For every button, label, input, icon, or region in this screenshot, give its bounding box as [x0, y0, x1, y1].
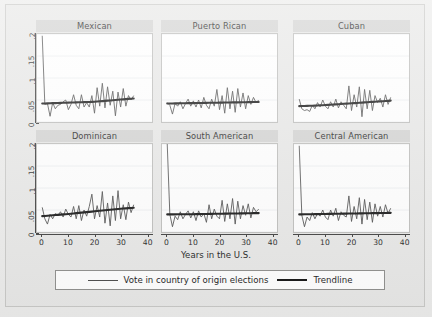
- series-trendline: [299, 101, 390, 107]
- plot-area-puerto-rican: [161, 33, 278, 123]
- x-tick-label: 30: [241, 238, 251, 247]
- plot-svg-cuban: [294, 34, 409, 122]
- x-tick-mark: [121, 234, 122, 237]
- x-tick-label: 0: [296, 238, 301, 247]
- series-vote-line: [42, 36, 133, 117]
- x-tick-label: 10: [320, 238, 330, 247]
- x-tick-label: 40: [268, 238, 278, 247]
- x-axis-central-american: 010203040: [293, 234, 410, 250]
- panel-cuban: Cuban: [293, 20, 410, 123]
- x-tick-mark: [378, 234, 379, 237]
- x-tick-mark: [148, 234, 149, 237]
- x-tick-label: 20: [347, 238, 357, 247]
- plot-area-cuban: [293, 33, 410, 123]
- x-tick-label: 20: [90, 238, 100, 247]
- y-axis-row-2: 0.05.1.15.2: [10, 143, 36, 233]
- plot-svg-central-american: [294, 144, 409, 232]
- x-tick-mark: [273, 234, 274, 237]
- plot-svg-mexican: [37, 34, 152, 122]
- x-tick-label: 0: [39, 238, 44, 247]
- panel-title-south-american: South American: [161, 130, 278, 142]
- chart-screenshot: 0.05.1.15.2 0.05.1.15.2 Mexican Puerto R…: [0, 0, 432, 317]
- x-tick-mark: [41, 234, 42, 237]
- x-axis-title: Years in the U.S.: [0, 250, 432, 260]
- x-tick-mark: [246, 234, 247, 237]
- y-axis-row-1: 0.05.1.15.2: [10, 33, 36, 123]
- plot-svg-puerto-rican: [162, 34, 277, 122]
- x-tick-mark: [68, 234, 69, 237]
- x-tick-mark: [95, 234, 96, 237]
- plot-svg-dominican: [37, 144, 152, 232]
- x-tick-label: 30: [116, 238, 126, 247]
- plot-area-mexican: [36, 33, 153, 123]
- legend-swatch-vote-line: [88, 280, 118, 281]
- x-tick-mark: [405, 234, 406, 237]
- panel-title-central-american: Central American: [293, 130, 410, 142]
- x-axis-south-american: 010203040: [161, 234, 278, 250]
- x-tick-mark: [352, 234, 353, 237]
- x-tick-mark: [325, 234, 326, 237]
- plot-area-south-american: [161, 143, 278, 233]
- panel-title-cuban: Cuban: [293, 20, 410, 32]
- panel-title-mexican: Mexican: [36, 20, 153, 32]
- panel-mexican: Mexican: [36, 20, 153, 123]
- x-tick-mark: [220, 234, 221, 237]
- y-tick-mark: [36, 123, 39, 124]
- legend-entry-trendline: Trendline: [277, 275, 352, 285]
- legend-label-trendline: Trendline: [313, 275, 352, 285]
- legend-swatch-trendline: [277, 279, 307, 281]
- x-axis-dominican: 010203040: [36, 234, 153, 250]
- panel-grid: 0.05.1.15.2 0.05.1.15.2 Mexican Puerto R…: [0, 0, 432, 317]
- panel-central-american: Central American: [293, 130, 410, 233]
- x-tick-label: 40: [143, 238, 153, 247]
- y-tick-label: 0: [28, 123, 37, 128]
- x-tick-label: 10: [63, 238, 73, 247]
- x-tick-mark: [298, 234, 299, 237]
- plot-area-dominican: [36, 143, 153, 233]
- panel-dominican: Dominican: [36, 130, 153, 233]
- x-tick-mark: [166, 234, 167, 237]
- panel-title-puerto-rican: Puerto Rican: [161, 20, 278, 32]
- plot-svg-south-american: [162, 144, 277, 232]
- x-tick-label: 10: [188, 238, 198, 247]
- panel-title-dominican: Dominican: [36, 130, 153, 142]
- x-tick-label: 0: [164, 238, 169, 247]
- legend: Vote in country of origin elections Tren…: [55, 270, 385, 290]
- plot-area-central-american: [293, 143, 410, 233]
- legend-entry-vote: Vote in country of origin elections: [88, 275, 269, 285]
- series-vote-line: [167, 88, 258, 114]
- panel-south-american: South American: [161, 130, 278, 233]
- x-tick-mark: [193, 234, 194, 237]
- legend-label-vote: Vote in country of origin elections: [124, 275, 269, 285]
- panel-puerto-rican: Puerto Rican: [161, 20, 278, 123]
- series-trendline: [167, 213, 258, 214]
- x-tick-label: 20: [215, 238, 225, 247]
- x-tick-label: 40: [400, 238, 410, 247]
- x-tick-label: 30: [373, 238, 383, 247]
